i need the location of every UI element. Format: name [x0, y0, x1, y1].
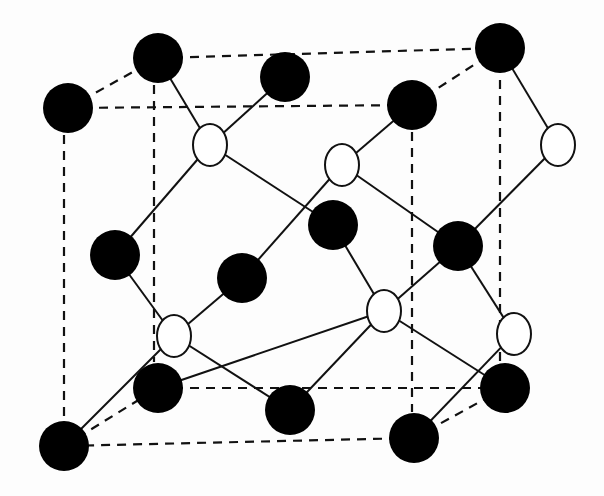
- atom-black: [133, 363, 183, 413]
- cell-edge: [68, 105, 412, 108]
- cell-edge: [158, 48, 500, 58]
- atom-black: [217, 253, 267, 303]
- atom-black: [39, 421, 89, 471]
- atom-black: [43, 83, 93, 133]
- bond: [158, 311, 384, 388]
- atom-black: [389, 413, 439, 463]
- atom-white: [193, 124, 227, 166]
- crystal-lattice-diagram: Zinc blende crystal structure (unit cell…: [0, 0, 604, 496]
- atom-white: [325, 144, 359, 186]
- white-atoms: [157, 124, 575, 357]
- atom-black: [265, 385, 315, 435]
- atom-white: [541, 124, 575, 166]
- cell-edge: [64, 438, 414, 446]
- atom-black: [133, 33, 183, 83]
- lattice-svg: [0, 0, 604, 496]
- atom-white: [497, 313, 531, 355]
- atom-black: [475, 23, 525, 73]
- atom-black: [387, 80, 437, 130]
- black-atoms: [39, 23, 530, 471]
- atom-white: [157, 315, 191, 357]
- atom-black: [90, 230, 140, 280]
- atom-black: [308, 200, 358, 250]
- atom-black: [260, 52, 310, 102]
- atom-black: [433, 221, 483, 271]
- atom-black: [480, 363, 530, 413]
- atom-white: [367, 290, 401, 332]
